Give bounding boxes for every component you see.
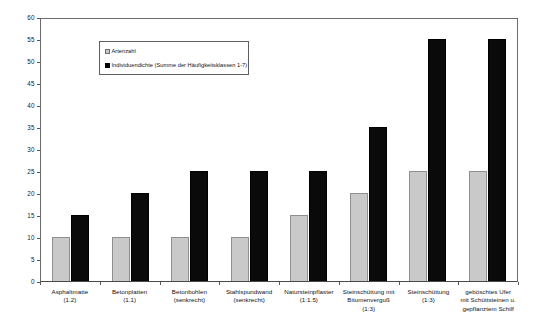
bar-individuendichte — [488, 39, 506, 281]
x-axis-category-label: Stahlspundwand(senkrecht) — [219, 288, 279, 334]
bar-individuendichte — [428, 39, 446, 281]
bar-artenzahl — [112, 237, 130, 281]
bar-individuendichte — [369, 127, 387, 281]
legend-item-artenzahl: Artenzahl — [105, 48, 243, 54]
y-axis-tick-label: 10 — [27, 235, 37, 241]
legend-item-individuendichte: Individuendichte (Summe der Häufigkeitsk… — [105, 62, 243, 68]
x-axis-label-line: Bitumenverguß — [340, 296, 398, 304]
bar-group — [398, 19, 458, 281]
bar-artenzahl — [469, 171, 487, 281]
bar-individuendichte — [190, 171, 208, 281]
x-axis-label-line: (1.1) — [101, 296, 159, 304]
x-axis-tick-mark — [458, 282, 459, 285]
x-axis-label-line: geböschtes Ufer — [459, 288, 517, 296]
x-axis-tick-mark — [518, 282, 519, 285]
y-axis-tick-label: 30 — [27, 147, 37, 153]
x-axis-label-line: (senkrecht) — [220, 296, 278, 304]
x-axis-category-label: Betonplatten(1.1) — [100, 288, 160, 334]
bar-artenzahl — [231, 237, 249, 281]
bar-group — [339, 19, 399, 281]
x-axis-category-label: Natursteinpflaster(1:1.5) — [279, 288, 339, 334]
x-axis-tick-mark — [40, 282, 41, 285]
bar-group — [458, 19, 518, 281]
bar-artenzahl — [350, 193, 368, 281]
bar-artenzahl — [290, 215, 308, 281]
y-axis: 605550454035302520151050 — [0, 18, 40, 282]
legend: Artenzahl Individuendichte (Summe der Hä… — [99, 41, 249, 75]
x-axis-label-line: (1.2) — [41, 296, 99, 304]
x-axis-category-label: geböschtes Ufermit Schüttsteinen u.gepfl… — [458, 288, 518, 334]
bar-group — [41, 19, 101, 281]
bar-individuendichte — [309, 171, 327, 281]
x-axis-tick-mark — [399, 282, 400, 285]
x-axis-category-label: Asphaltmatte(1.2) — [40, 288, 100, 334]
bar-group — [279, 19, 339, 281]
bar-individuendichte — [250, 171, 268, 281]
x-axis-labels: Asphaltmatte(1.2)Betonplatten(1.1)Betonb… — [40, 288, 518, 334]
x-axis-label-line: (1:3) — [400, 296, 458, 304]
y-axis-tick-label: 35 — [27, 125, 37, 131]
x-axis-ticks — [40, 282, 518, 286]
legend-item-label: Artenzahl — [112, 48, 136, 54]
x-axis-label-line: Steinschüttung mit — [340, 288, 398, 296]
x-axis-category-label: Steinschüttung(1:3) — [399, 288, 459, 334]
y-axis-tick-label: 40 — [27, 103, 37, 109]
x-axis-category-label: Steinschüttung mitBitumenverguß(1:3) — [339, 288, 399, 334]
x-axis-tick-mark — [339, 282, 340, 285]
y-axis-tick-label: 20 — [27, 191, 37, 197]
y-axis-tick-label: 45 — [27, 81, 37, 87]
bar-artenzahl — [52, 237, 70, 281]
x-axis-tick-mark — [160, 282, 161, 285]
x-axis-tick-mark — [219, 282, 220, 285]
bar-artenzahl — [409, 171, 427, 281]
x-axis-category-label: Betonbohlen(senkrecht) — [160, 288, 220, 334]
legend-item-label: Individuendichte (Summe der Häufigkeitsk… — [112, 62, 248, 68]
bar-individuendichte — [131, 193, 149, 281]
y-axis-tick-label: 55 — [27, 37, 37, 43]
bar-individuendichte — [71, 215, 89, 281]
x-axis-tick-mark — [279, 282, 280, 285]
x-axis-label-line: (1:3) — [340, 305, 398, 313]
x-axis-label-line: Asphaltmatte — [41, 288, 99, 296]
x-axis-label-line: Betonplatten — [101, 288, 159, 296]
x-axis-label-line: Betonbohlen — [161, 288, 219, 296]
legend-swatch-icon — [105, 63, 110, 68]
bar-artenzahl — [171, 237, 189, 281]
x-axis-label-line: Steinschüttung — [400, 288, 458, 296]
x-axis-label-line: mit Schüttsteinen u. — [459, 296, 517, 304]
y-axis-tick-label: 50 — [27, 59, 37, 65]
bar-chart: 605550454035302520151050 Asphaltmatte(1.… — [0, 0, 536, 334]
y-axis-tick-label: 25 — [27, 169, 37, 175]
x-axis-label-line: Stahlspundwand — [220, 288, 278, 296]
x-axis-tick-mark — [100, 282, 101, 285]
y-axis-tick-label: 15 — [27, 213, 37, 219]
y-axis-tick-label: 60 — [27, 15, 37, 21]
legend-swatch-icon — [105, 49, 110, 54]
x-axis-label-line: gepflanztem Schilf — [459, 305, 517, 313]
x-axis-label-line: (senkrecht) — [161, 296, 219, 304]
x-axis-label-line: (1:1.5) — [280, 296, 338, 304]
x-axis-label-line: Natursteinpflaster — [280, 288, 338, 296]
